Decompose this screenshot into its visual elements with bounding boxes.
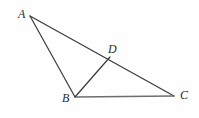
- vertex-label-b: B: [62, 92, 69, 104]
- segment-BD: [75, 57, 110, 97]
- vertex-label-d: D: [108, 43, 117, 55]
- segment-BC: [76, 96, 174, 97]
- geometry-figure: A B C D: [0, 0, 199, 118]
- figure-canvas: [0, 0, 199, 118]
- vertex-label-a: A: [18, 8, 25, 20]
- vertex-label-c: C: [180, 89, 188, 101]
